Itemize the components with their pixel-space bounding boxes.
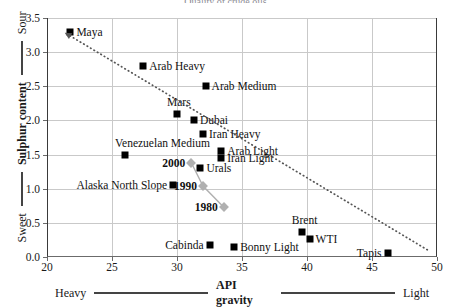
x-axis-rule (94, 292, 208, 293)
y-axis-high-tag: Sour (15, 5, 30, 42)
x-tick-label: 25 (106, 261, 118, 273)
crude-marker-label: Mars (167, 96, 191, 108)
year-marker-label: 1980 (195, 201, 218, 213)
crude-marker-label: WTI (316, 233, 338, 245)
gridline-v (112, 19, 113, 256)
crude-marker-label: Tapis (357, 247, 382, 259)
crude-marker[interactable] (174, 110, 181, 117)
chart-title: Quality of crude oils (0, 0, 451, 3)
crude-marker[interactable] (218, 154, 225, 161)
y-tick (43, 257, 47, 258)
crude-marker[interactable] (206, 242, 213, 249)
crude-marker[interactable] (67, 28, 74, 35)
year-marker-label: 1990 (174, 180, 197, 192)
y-tick (43, 18, 47, 19)
crude-marker-label: Arab Heavy (149, 60, 205, 72)
x-tick-label: 45 (366, 261, 378, 273)
year-marker-label: 2000 (162, 157, 185, 169)
y-axis-rule-2 (21, 41, 22, 75)
crude-marker[interactable] (298, 228, 305, 235)
x-tick-label: 20 (41, 261, 53, 273)
x-axis-rule-2 (281, 292, 395, 293)
y-tick (43, 189, 47, 190)
crude-marker-label: Iran Light (227, 152, 273, 164)
y-tick (43, 223, 47, 224)
crude-marker-label: Urals (206, 162, 231, 174)
x-axis-title: Heavy API gravity Light (47, 283, 437, 303)
crude-marker-label: Iran Heavy (209, 128, 260, 140)
x-tick-label: 30 (171, 261, 183, 273)
crude-marker[interactable] (197, 165, 204, 172)
y-axis-title: Sweet Sulphur content Sour (13, 0, 31, 257)
x-tick-label: 50 (431, 261, 443, 273)
y-tick (43, 52, 47, 53)
crude-marker-label: Cabinda (165, 239, 203, 251)
gridline-v (372, 19, 373, 256)
crude-marker-label: Bonny Light (240, 241, 298, 253)
y-axis-rule (21, 172, 22, 206)
crude-marker[interactable] (384, 249, 391, 256)
crude-marker-label: Venezuelan Medium (115, 137, 210, 149)
x-tick-label: 35 (236, 261, 248, 273)
crude-marker[interactable] (306, 235, 313, 242)
crude-marker-label: Alaska North Slope (76, 179, 167, 191)
crude-marker[interactable] (140, 62, 147, 69)
y-axis-low-tag: Sweet (15, 206, 30, 249)
x-tick-label: 40 (301, 261, 313, 273)
crude-marker-label: Dubai (200, 114, 228, 126)
crude-marker[interactable] (190, 117, 197, 124)
y-tick (43, 120, 47, 121)
crude-marker[interactable] (231, 244, 238, 251)
y-axis-label: Sulphur content (15, 75, 30, 172)
crude-marker-label: Arab Medium (212, 80, 277, 92)
x-axis-right-tag: Light (395, 286, 437, 301)
crude-marker[interactable] (202, 83, 209, 90)
y-tick (43, 155, 47, 156)
x-axis-left-tag: Heavy (47, 286, 94, 301)
crude-marker-label: Brent (292, 214, 318, 226)
y-tick (43, 86, 47, 87)
crude-marker[interactable] (122, 151, 129, 158)
crude-marker-label: Maya (76, 26, 102, 38)
x-axis-label: API gravity (208, 278, 281, 308)
